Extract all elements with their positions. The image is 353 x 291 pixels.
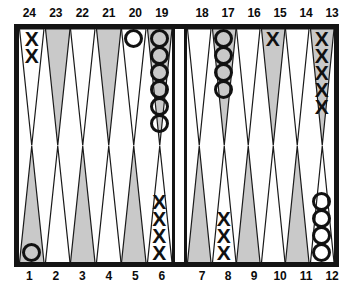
point-number-3: 3 xyxy=(69,266,96,286)
point-number-12: 12 xyxy=(319,266,345,286)
quadrant-top-right: XXXXXX xyxy=(187,29,334,146)
point-number-22: 22 xyxy=(69,3,96,23)
top-right-label-group: 181716151413 xyxy=(189,3,345,23)
point-8[interactable]: XXX xyxy=(212,146,237,263)
point-triangle-2 xyxy=(45,146,71,263)
point-24[interactable]: XX xyxy=(19,29,45,146)
bottom-left-label-group: 123456 xyxy=(16,266,175,286)
point-triangle-13 xyxy=(310,29,335,146)
point-number-9: 9 xyxy=(241,266,267,286)
point-triangle-16 xyxy=(236,29,261,146)
point-13[interactable]: XXXXX xyxy=(310,29,335,146)
point-18[interactable] xyxy=(187,29,212,146)
point-triangle-5 xyxy=(121,146,147,263)
point-triangle-15 xyxy=(261,29,286,146)
point-triangle-18 xyxy=(187,29,212,146)
point-number-8: 8 xyxy=(215,266,241,286)
point-triangle-6 xyxy=(147,146,173,263)
point-triangle-22 xyxy=(70,29,96,146)
point-number-5: 5 xyxy=(122,266,149,286)
point-triangle-12 xyxy=(310,146,335,263)
point-15[interactable]: X xyxy=(261,29,286,146)
point-triangle-20 xyxy=(121,29,147,146)
point-triangle-11 xyxy=(285,146,310,263)
point-triangle-3 xyxy=(70,146,96,263)
top-left-label-group: 242322212019 xyxy=(16,3,175,23)
point-number-24: 24 xyxy=(16,3,43,23)
point-9[interactable] xyxy=(236,146,261,263)
point-6[interactable]: XXXX xyxy=(147,146,173,263)
point-number-15: 15 xyxy=(267,3,293,23)
point-22[interactable] xyxy=(70,29,96,146)
point-number-19: 19 xyxy=(149,3,176,23)
point-20[interactable] xyxy=(121,29,147,146)
point-triangle-19 xyxy=(147,29,173,146)
point-number-11: 11 xyxy=(293,266,319,286)
point-21[interactable] xyxy=(96,29,122,146)
backgammon-board-figure: 242322212019 181716151413 XX XXXX XXXXXX… xyxy=(0,0,353,291)
point-triangle-7 xyxy=(187,146,212,263)
quadrant-bottom-left: XXXX xyxy=(19,146,172,263)
point-14[interactable] xyxy=(285,29,310,146)
point-17[interactable] xyxy=(212,29,237,146)
point-triangle-21 xyxy=(96,29,122,146)
point-number-4: 4 xyxy=(96,266,123,286)
bottom-right-label-group: 789101112 xyxy=(189,266,345,286)
point-triangle-9 xyxy=(236,146,261,263)
point-23[interactable] xyxy=(45,29,71,146)
point-triangle-23 xyxy=(45,29,71,146)
board-bar xyxy=(175,29,184,262)
point-2[interactable] xyxy=(45,146,71,263)
point-16[interactable] xyxy=(236,29,261,146)
point-number-21: 21 xyxy=(96,3,123,23)
point-triangle-1 xyxy=(19,146,45,263)
board-frame: XX XXXX XXXXXX XXX xyxy=(14,24,339,267)
point-12[interactable] xyxy=(310,146,335,263)
board-half-left: XX XXXX xyxy=(19,29,175,262)
point-1[interactable] xyxy=(19,146,45,263)
point-triangle-17 xyxy=(212,29,237,146)
point-number-6: 6 xyxy=(149,266,176,286)
point-number-10: 10 xyxy=(267,266,293,286)
point-triangle-8 xyxy=(212,146,237,263)
top-point-labels: 242322212019 181716151413 xyxy=(0,3,353,23)
point-3[interactable] xyxy=(70,146,96,263)
point-11[interactable] xyxy=(285,146,310,263)
point-10[interactable] xyxy=(261,146,286,263)
point-5[interactable] xyxy=(121,146,147,263)
quadrant-bottom-right: XXX xyxy=(187,146,334,263)
point-number-16: 16 xyxy=(241,3,267,23)
point-triangle-14 xyxy=(285,29,310,146)
point-19[interactable] xyxy=(147,29,173,146)
point-triangle-24 xyxy=(19,29,45,146)
point-number-20: 20 xyxy=(122,3,149,23)
bottom-point-labels: 123456 789101112 xyxy=(0,266,353,286)
board-half-right: XXXXXX XXX xyxy=(184,29,334,262)
point-number-1: 1 xyxy=(16,266,43,286)
point-number-7: 7 xyxy=(189,266,215,286)
point-number-23: 23 xyxy=(43,3,70,23)
point-7[interactable] xyxy=(187,146,212,263)
quadrant-top-left: XX xyxy=(19,29,172,146)
point-number-2: 2 xyxy=(43,266,70,286)
point-triangle-4 xyxy=(96,146,122,263)
point-number-13: 13 xyxy=(319,3,345,23)
point-triangle-10 xyxy=(261,146,286,263)
point-number-18: 18 xyxy=(189,3,215,23)
point-4[interactable] xyxy=(96,146,122,263)
point-number-17: 17 xyxy=(215,3,241,23)
point-number-14: 14 xyxy=(293,3,319,23)
